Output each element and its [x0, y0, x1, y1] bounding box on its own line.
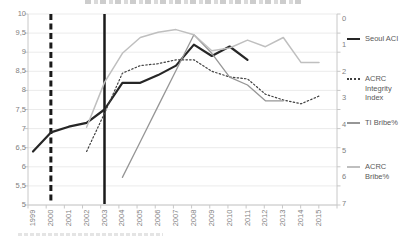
series-line-acrc-integrity-index [87, 60, 319, 152]
x-axis-label: 2010 [225, 203, 235, 233]
legend-item: Seoul ACI [347, 34, 405, 44]
legend-line-sample-ti-bribe [347, 122, 360, 124]
left-axis-label: 7,5 [4, 105, 26, 115]
legend-item: ACRC Bribe% [347, 162, 405, 181]
left-axis-label: 9 [4, 47, 26, 57]
x-axis-label: 2009 [207, 203, 217, 233]
series-line-seoul-aci [33, 45, 248, 152]
left-axis-label: 6,5 [4, 143, 26, 153]
left-axis-label: 8,5 [4, 66, 26, 76]
x-axis-label: 2003 [100, 203, 110, 233]
x-axis-label: 2004 [117, 203, 127, 233]
x-axis-label: 2001 [64, 203, 74, 233]
left-axis-label: 5 [4, 200, 26, 210]
x-axis-label: 2015 [314, 203, 324, 233]
left-axis-label: 5,5 [4, 181, 26, 191]
left-axis-label: 8 [4, 85, 26, 95]
x-axis-label: 2013 [278, 203, 288, 233]
left-axis-label: 10 [4, 9, 26, 19]
x-axis-label: 2014 [296, 203, 306, 233]
x-axis-label: 2002 [82, 203, 92, 233]
legend: Seoul ACI ACRC Integrity Index TI Bribe%… [347, 0, 409, 238]
legend-line-sample-acrc-integrity [347, 78, 360, 80]
legend-line-sample-seoul-aci [347, 38, 360, 40]
x-axis-label: 2008 [189, 203, 199, 233]
legend-item-label: Seoul ACI [365, 34, 405, 44]
legend-item-label: ACRC Integrity Index [365, 74, 405, 103]
legend-item: TI Bribe% [347, 118, 405, 128]
cropped-caption-fragment [18, 233, 163, 236]
legend-line-sample-acrc-bribe [347, 166, 360, 168]
x-axis-label: 2006 [153, 203, 163, 233]
series-line-ti-bribe- [122, 35, 283, 178]
x-axis-label: 2000 [46, 203, 56, 233]
x-axis-label: 2011 [243, 203, 253, 233]
chart-figure: 109,598,587,576,565,55012345671999200020… [0, 0, 412, 238]
x-axis-label: 1999 [28, 203, 38, 233]
legend-item-label: ACRC Bribe% [365, 162, 405, 181]
x-axis-label: 2012 [260, 203, 270, 233]
legend-item-label: TI Bribe% [365, 118, 405, 128]
left-axis-label: 9,5 [4, 28, 26, 38]
legend-item: ACRC Integrity Index [347, 74, 405, 103]
x-axis-label: 2007 [171, 203, 181, 233]
x-axis-label: 2005 [135, 203, 145, 233]
left-axis-label: 7 [4, 124, 26, 134]
left-axis-label: 6 [4, 162, 26, 172]
